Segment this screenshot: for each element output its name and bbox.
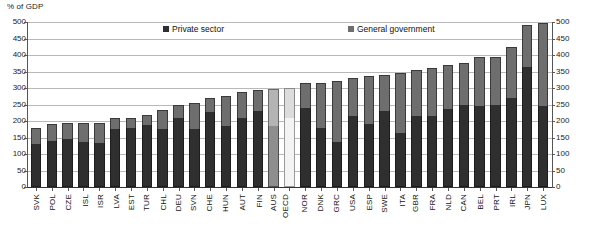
bar-segment-government [221, 96, 231, 126]
bar-nld[interactable] [443, 65, 453, 187]
bar-ita[interactable] [395, 73, 405, 187]
bar-chl[interactable] [157, 110, 167, 187]
x-axis-tick-label-text: CZE [63, 194, 72, 211]
x-axis-label-slot: EST [123, 188, 139, 234]
y-axis-tickmark [24, 55, 27, 56]
x-axis-tick-label-text: PRT [491, 194, 500, 210]
bar-dnk[interactable] [316, 83, 326, 187]
bar-segment-government [237, 92, 247, 118]
bar-est[interactable] [126, 118, 136, 187]
y-axis-tickmark [552, 154, 555, 155]
bar-fra[interactable] [427, 68, 437, 187]
x-axis-tick-label-text: SVN [190, 194, 199, 211]
bar-isl[interactable] [78, 123, 88, 187]
y-axis-tickmark [552, 171, 555, 172]
x-axis-tick-label-text: LVA [112, 194, 121, 209]
bar-segment-government [31, 128, 41, 144]
x-axis-tickmark [210, 188, 211, 191]
y-axis-tick-label-right: 150 [556, 134, 569, 142]
bar-esp[interactable] [364, 76, 374, 187]
x-axis-label-slot: AUT [234, 188, 250, 234]
bar-slot [503, 22, 519, 187]
x-axis-label-slot: JPN [519, 188, 535, 234]
bar-slot [424, 22, 440, 187]
x-axis-tick-label-oecd: OECD [278, 170, 287, 194]
x-axis-tickmark [321, 188, 322, 191]
bar-segment-government [316, 83, 326, 128]
bar-prt[interactable] [490, 57, 500, 187]
x-axis-tick-label-text: GRC [332, 194, 341, 212]
bar-can[interactable] [459, 63, 469, 187]
bar-lva[interactable] [110, 118, 120, 187]
bar-segment-government [205, 98, 215, 112]
bar-jpn[interactable] [522, 25, 532, 187]
bar-segment-government [332, 81, 342, 142]
x-axis-tick-label-can: CAN [455, 177, 464, 195]
x-axis-tick-label-aut: AUT [234, 177, 243, 194]
bar-slot [297, 22, 313, 187]
bar-gbr[interactable] [411, 70, 421, 187]
bar-deu[interactable] [173, 105, 183, 187]
y-axis-tick-label-right: 350 [556, 68, 569, 76]
x-axis-tick-label-svn: SVN [186, 177, 195, 194]
x-axis-label-slot: SVN [186, 188, 202, 234]
bar-hun[interactable] [221, 96, 231, 187]
bar-segment-government [253, 90, 263, 111]
bar-swe[interactable] [379, 75, 389, 187]
x-axis-label-slot: AUS [266, 188, 282, 234]
x-axis-label-slot: GBR [408, 188, 424, 234]
bar-segment-government [522, 25, 532, 66]
x-axis-label-slot: NOR [297, 188, 313, 234]
bar-svn[interactable] [189, 103, 199, 187]
x-axis-tick-label-esp: ESP [360, 177, 369, 194]
bar-irl[interactable] [506, 47, 516, 187]
y-axis-tickmark [24, 138, 27, 139]
x-axis-tick-label-isl: ISL [77, 181, 86, 194]
x-axis-labels: SVKPOLCZEISLISRLVAESTTURCHLDEUSVNCHEHUNA… [28, 188, 551, 234]
x-axis-tick-label-text: IRL [509, 194, 518, 207]
y-axis-tick-label-right: 500 [556, 18, 569, 26]
bar-aut[interactable] [237, 92, 247, 187]
x-axis-label-slot: CAN [456, 188, 472, 234]
x-axis-tick-label-text: AUT [238, 194, 247, 211]
bar-segment-private [395, 133, 405, 187]
bar-segment-government [268, 89, 278, 126]
bar-isr[interactable] [94, 123, 104, 187]
bar-lux[interactable] [538, 23, 548, 187]
x-axis-tick-label-text: ESP [364, 194, 373, 211]
bar-segment-government [284, 88, 294, 118]
x-axis-tick-label-hun: HUN [217, 176, 226, 194]
x-axis-tick-label-nor: NOR [296, 176, 305, 194]
x-axis-tick-label-jpn: JPN [519, 178, 528, 194]
bar-segment-private [506, 98, 516, 187]
bar-slot [155, 22, 171, 187]
bar-segment-government [364, 76, 374, 124]
bar-grc[interactable] [332, 81, 342, 187]
y-axis-tickmark [552, 72, 555, 73]
bar-che[interactable] [205, 98, 215, 187]
x-axis-label-slot: CHE [202, 188, 218, 234]
bar-nor[interactable] [300, 83, 310, 187]
bar-fin[interactable] [253, 90, 263, 187]
x-axis-label-slot: ISL [76, 188, 92, 234]
bar-segment-government [78, 123, 88, 143]
x-axis-tick-label-text: USA [348, 194, 357, 211]
x-axis-tick-label-text: SWE [379, 194, 388, 213]
bar-segment-private [522, 67, 532, 187]
x-axis-tick-label-lux: LUX [535, 178, 544, 194]
bar-slot [139, 22, 155, 187]
x-axis-tick-label-text: FRA [428, 194, 437, 211]
x-axis-label-slot: ITA [393, 188, 409, 234]
x-axis-label-slot: DNK [313, 188, 329, 234]
x-axis-tickmark [337, 188, 338, 191]
bar-usa[interactable] [348, 78, 358, 187]
y-axis-tickmark [552, 187, 555, 188]
y-axis-tickmark [552, 105, 555, 106]
y-axis-tickmark [24, 171, 27, 172]
y-axis-tick-label-right: 450 [556, 35, 569, 43]
y-axis-tickmark [552, 88, 555, 89]
legend-swatch-private-icon [163, 26, 169, 32]
x-axis-tick-label-text: CAN [459, 194, 468, 212]
bar-bel[interactable] [474, 57, 484, 187]
bar-segment-private [253, 111, 263, 187]
